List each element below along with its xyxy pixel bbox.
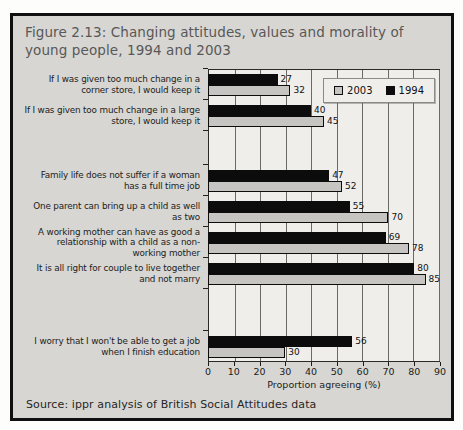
spacer-label [24, 131, 208, 165]
spacer-plot [208, 289, 440, 331]
x-axis-tick-label: 80 [408, 366, 420, 377]
bar-1994 [208, 232, 386, 243]
x-axis-tick-label: 90 [434, 366, 446, 377]
bar-1994 [208, 201, 350, 212]
bar-value-label: 80 [417, 263, 428, 273]
bar-wrap: 78 [208, 243, 440, 254]
bar-wrap: 45 [208, 116, 440, 127]
bar-value-label: 30 [288, 347, 299, 357]
bar-group: 4045 [208, 100, 440, 131]
chart-row: One parent can bring up a child as well … [24, 196, 440, 227]
bar-1994 [208, 263, 414, 274]
legend-swatch-1994 [386, 86, 395, 95]
x-axis-title: Proportion agreeing (%) [208, 379, 440, 390]
bar-2003 [208, 347, 285, 358]
x-axis-tick-label: 10 [228, 366, 240, 377]
bar-wrap: 30 [208, 347, 440, 358]
category-label: A working mother can have as good a rela… [24, 227, 208, 258]
bar-2003 [208, 116, 324, 127]
bar-group: 5630 [208, 331, 440, 362]
category-label: Family life does not suffer if a woman h… [24, 165, 208, 196]
bar-value-label: 70 [391, 212, 402, 222]
bar-1994 [208, 336, 352, 347]
bar-1994 [208, 105, 311, 116]
x-axis-tick-label: 60 [357, 366, 369, 377]
bar-chart: 2003 1994 If I was given too much change… [24, 69, 440, 362]
category-label: If I was given too much change in a corn… [24, 69, 208, 100]
bar-1994 [208, 170, 329, 181]
bar-value-label: 52 [345, 181, 356, 191]
bar-wrap: 47 [208, 170, 440, 181]
x-axis-tick-label: 30 [279, 366, 291, 377]
chart-row: I worry that I won't be able to get a jo… [24, 331, 440, 362]
bar-2003 [208, 181, 342, 192]
bar-value-label: 78 [412, 243, 423, 253]
bar-wrap: 52 [208, 181, 440, 192]
bar-2003 [208, 243, 409, 254]
bar-1994 [208, 74, 278, 85]
bar-wrap: 56 [208, 336, 440, 347]
x-axis-tick-label: 40 [305, 366, 317, 377]
bar-value-label: 55 [353, 201, 364, 211]
bar-value-label: 40 [314, 105, 325, 115]
bar-value-label: 85 [429, 274, 440, 284]
spacer-plot [208, 131, 440, 165]
bar-wrap: 69 [208, 232, 440, 243]
legend-item-2003: 2003 [334, 85, 372, 96]
bar-group: 4752 [208, 165, 440, 196]
bar-2003 [208, 274, 426, 285]
chart-row: If I was given too much change in a larg… [24, 100, 440, 131]
category-label: I worry that I won't be able to get a jo… [24, 331, 208, 362]
bar-value-label: 47 [332, 170, 343, 180]
chart-row: A working mother can have as good a rela… [24, 227, 440, 258]
legend-label-1994: 1994 [399, 85, 424, 96]
figure-box: Figure 2.13: Changing attitudes, values … [10, 13, 454, 421]
bar-value-label: 69 [389, 232, 400, 242]
x-axis-tick-label: 20 [254, 366, 266, 377]
bar-group: 8085 [208, 258, 440, 289]
category-label: If I was given too much change in a larg… [24, 100, 208, 131]
row-spacer [24, 289, 440, 331]
bar-wrap: 70 [208, 212, 440, 223]
category-label: It is all right for couple to live toget… [24, 258, 208, 289]
chart-row: It is all right for couple to live toget… [24, 258, 440, 289]
bar-value-label: 56 [355, 336, 366, 346]
x-axis-tick-label: 70 [382, 366, 394, 377]
page: Figure 2.13: Changing attitudes, values … [0, 0, 463, 430]
bar-2003 [208, 212, 388, 223]
bar-group: 6978 [208, 227, 440, 258]
chart-row: Family life does not suffer if a woman h… [24, 165, 440, 196]
bar-2003 [208, 85, 290, 96]
x-axis: 0102030405060708090 [208, 362, 440, 378]
figure-title: Figure 2.13: Changing attitudes, values … [25, 24, 440, 59]
bar-value-label: 45 [327, 116, 338, 126]
bar-group: 5570 [208, 196, 440, 227]
x-axis-tick-label: 50 [331, 366, 343, 377]
legend-item-1994: 1994 [386, 85, 424, 96]
bar-wrap: 80 [208, 263, 440, 274]
bar-value-label: 32 [293, 85, 304, 95]
bar-wrap: 40 [208, 105, 440, 116]
legend-swatch-2003 [334, 86, 343, 95]
bar-wrap: 55 [208, 201, 440, 212]
bar-value-label: 27 [281, 74, 292, 84]
legend-label-2003: 2003 [347, 85, 372, 96]
bar-wrap: 85 [208, 274, 440, 285]
category-label: One parent can bring up a child as well … [24, 196, 208, 227]
spacer-label [24, 289, 208, 331]
row-spacer [24, 131, 440, 165]
x-axis-tick-label: 0 [205, 366, 211, 377]
source-note: Source: ippr analysis of British Social … [26, 398, 440, 411]
chart-legend: 2003 1994 [323, 78, 435, 103]
